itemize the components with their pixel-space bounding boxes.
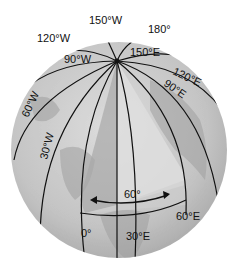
north-pole (115, 59, 120, 64)
label-180: 180° (148, 23, 171, 35)
label-120w: 120°W (37, 32, 71, 44)
label-60e: 60°E (176, 210, 200, 222)
label-30e: 30°E (126, 230, 150, 242)
label-0: 0° (81, 227, 92, 239)
label-90w: 90°W (64, 53, 92, 65)
label-angle-60: 60° (124, 188, 141, 200)
label-150w: 150°W (89, 14, 123, 26)
label-150e: 150°E (130, 46, 160, 58)
globe-diagram: 150°W 180° 120°W 90°W 150°E 120°E 90°E 6… (0, 0, 236, 269)
